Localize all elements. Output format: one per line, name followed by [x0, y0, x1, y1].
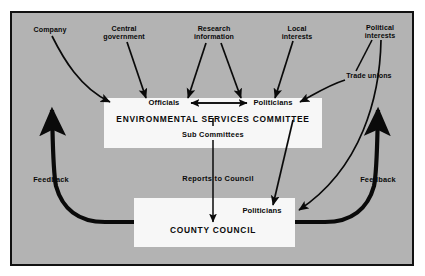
diagram-canvas: Company Central government Research info…	[0, 0, 425, 276]
source-label-local-interests: Local interests	[282, 26, 312, 41]
sub-committees-label: Sub Committees	[182, 131, 244, 139]
source-label-central-government: Central government	[103, 26, 145, 41]
feedback-left-label: Feedback	[33, 176, 69, 184]
committee-politicians-label: Politicians	[253, 99, 292, 107]
source-label-trade-unions: Trade unions	[346, 73, 391, 81]
committee-title: ENVIRONMENTAL SERVICES COMMITTEE	[116, 115, 309, 124]
source-label-company: Company	[33, 27, 66, 35]
council-title: COUNTY COUNCIL	[170, 226, 256, 235]
feedback-right-label: Feedback	[360, 176, 396, 184]
source-label-political-interests: Political interests	[365, 25, 395, 40]
source-label-research-information: Research information	[194, 26, 234, 41]
committee-officials-label: Officials	[149, 99, 180, 107]
council-politicians-label: Politicians	[242, 207, 281, 215]
reports-to-council-label: Reports to Council	[182, 175, 254, 183]
